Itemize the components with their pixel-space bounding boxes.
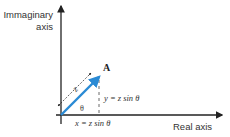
x-axis-label: Real axis [173,121,212,132]
y-component-label: y = z sin θ [103,93,139,103]
x-component-label: x = z sin θ [74,118,110,128]
angle-label: θ [80,104,84,113]
y-axis-label-line1: Immaginary [3,9,53,20]
point-label: A [103,62,111,73]
complex-plane-diagram: Immaginary axis Real axis A z θ y = z si… [0,0,230,137]
y-axis-label-line2: axis [36,21,53,32]
